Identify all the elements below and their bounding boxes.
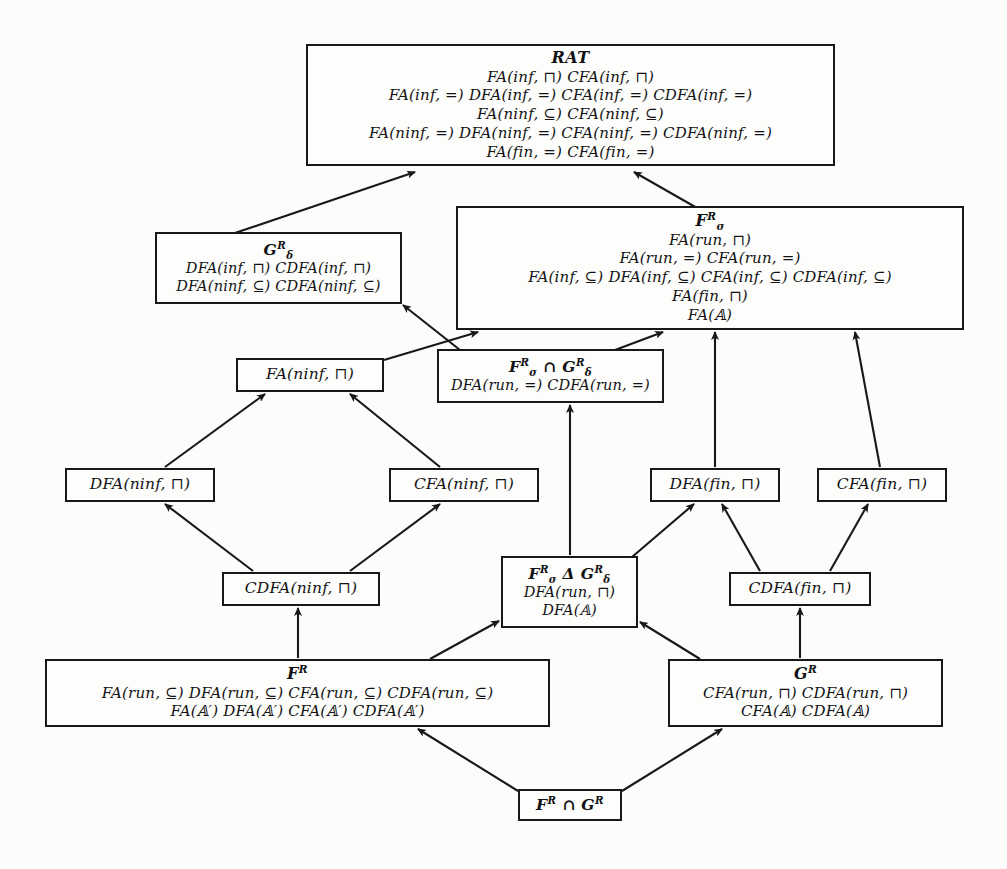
node-row-dfa-fin-meet-0: DFA(fin, ⊓)	[670, 475, 761, 494]
diagram-canvas: RATFA(inf, ⊓) CFA(inf, ⊓)FA(inf, =) DFA(…	[0, 0, 1007, 869]
node-row-f-delta-g-1: DFA(𝔸)	[542, 601, 597, 619]
node-rat[interactable]: RATFA(inf, ⊓) CFA(inf, ⊓)FA(inf, =) DFA(…	[306, 44, 835, 166]
node-row-f-sigma-r-2: FA(inf, ⊆) DFA(inf, ⊆) CFA(inf, ⊆) CDFA(…	[528, 268, 892, 287]
node-title-f-r: FR	[287, 665, 308, 684]
node-row-g-delta-r-0: DFA(inf, ⊓) CDFA(inf, ⊓)	[186, 259, 371, 277]
node-cfa-ninf-meet[interactable]: CFA(ninf, ⊓)	[389, 468, 539, 502]
scan-artifact	[30, 198, 40, 210]
edge-fcapg-to-fsigma	[615, 332, 663, 350]
node-row-g-delta-r-1: DFA(ninf, ⊆) CDFA(ninf, ⊆)	[176, 277, 380, 295]
node-row-g-r-0: CFA(run, ⊓) CDFA(run, ⊓)	[703, 684, 908, 703]
edge-fdeltag-to-dfafin	[632, 504, 694, 557]
edge-cfafin-to-fsigma	[855, 332, 880, 467]
edge-cfaninf-to-faninf	[350, 394, 440, 467]
edge-fcapgbottom-to-fr	[418, 729, 518, 791]
node-g-r[interactable]: GRCFA(run, ⊓) CDFA(run, ⊓)CFA(𝔸) CDFA(𝔸)	[668, 659, 943, 727]
edge-fcapgbottom-to-gr	[622, 729, 722, 791]
node-f-cap-g[interactable]: FRσ ∩ GRδDFA(run, =) CDFA(run, =)	[437, 349, 664, 403]
node-f-delta-g[interactable]: FRσ Δ GRδDFA(run, ⊓)DFA(𝔸)	[501, 556, 638, 628]
node-row-f-cap-g-0: DFA(run, =) CDFA(run, =)	[451, 376, 650, 394]
node-row-rat-0: FA(inf, ⊓) CFA(inf, ⊓)	[487, 68, 654, 87]
node-row-cfa-ninf-meet-0: CFA(ninf, ⊓)	[414, 475, 514, 494]
edge-f-sigma-to-rat	[634, 172, 697, 208]
node-row-f-sigma-r-0: FA(run, ⊓)	[669, 231, 751, 250]
node-title-f-delta-g: FRσ Δ GRδ	[528, 565, 610, 583]
node-row-cdfa-fin-meet-0: CDFA(fin, ⊓)	[749, 579, 852, 598]
edge-cdfaninf-to-cfaninf	[350, 504, 440, 571]
node-row-f-sigma-r-3: FA(fin, ⊓)	[672, 287, 748, 306]
edge-fcapg-to-gdelta	[403, 305, 460, 350]
edge-g-delta-to-rat	[232, 172, 415, 234]
node-f-cap-g-bottom[interactable]: FR ∩ GR	[518, 789, 622, 821]
node-dfa-ninf-meet[interactable]: DFA(ninf, ⊓)	[65, 468, 215, 502]
node-title-f-cap-g-bottom: FR ∩ GR	[536, 796, 604, 814]
node-row-f-delta-g-0: DFA(run, ⊓)	[524, 583, 615, 601]
node-row-rat-4: FA(fin, =) CFA(fin, =)	[486, 143, 654, 162]
node-f-r[interactable]: FRFA(run, ⊆) DFA(run, ⊆) CFA(run, ⊆) CDF…	[45, 659, 550, 727]
edge-gr-to-fdeltag	[640, 622, 700, 659]
node-row-dfa-ninf-meet-0: DFA(ninf, ⊓)	[90, 475, 190, 494]
edge-fr-to-fdeltag	[430, 621, 499, 659]
node-title-g-delta-r: GRδ	[264, 241, 294, 259]
node-title-g-r: GR	[794, 665, 817, 684]
node-dfa-fin-meet[interactable]: DFA(fin, ⊓)	[650, 468, 780, 502]
node-row-rat-3: FA(ninf, =) DFA(ninf, =) CFA(ninf, =) CD…	[369, 124, 772, 143]
node-row-rat-2: FA(ninf, ⊆) CFA(ninf, ⊆)	[477, 105, 664, 124]
edge-cdfafin-to-cfafin	[830, 504, 868, 571]
node-row-f-r-1: FA(𝔸′) DFA(𝔸′) CFA(𝔸′) CDFA(𝔸′)	[170, 702, 424, 721]
node-cdfa-ninf-meet[interactable]: CDFA(ninf, ⊓)	[222, 572, 380, 606]
node-row-rat-1: FA(inf, =) DFA(inf, =) CFA(inf, =) CDFA(…	[389, 86, 753, 105]
node-title-f-sigma-r: FRσ	[695, 212, 724, 231]
edge-cdfafin-to-dfafin	[722, 504, 760, 571]
edge-cdfaninf-to-dfaninf	[165, 504, 253, 571]
node-title-f-cap-g: FRσ ∩ GRδ	[509, 358, 592, 376]
node-row-f-sigma-r-1: FA(run, =) CFA(run, =)	[619, 249, 800, 268]
node-g-delta-r[interactable]: GRδDFA(inf, ⊓) CDFA(inf, ⊓)DFA(ninf, ⊆) …	[155, 232, 402, 304]
node-row-cfa-fin-meet-0: CFA(fin, ⊓)	[837, 475, 927, 494]
node-cfa-fin-meet[interactable]: CFA(fin, ⊓)	[817, 468, 947, 502]
node-row-cdfa-ninf-meet-0: CDFA(ninf, ⊓)	[245, 579, 358, 598]
node-title-rat: RAT	[552, 49, 590, 68]
node-f-sigma-r[interactable]: FRσFA(run, ⊓)FA(run, =) CFA(run, =)FA(in…	[456, 206, 964, 330]
node-row-fa-ninf-meet-0: FA(ninf, ⊓)	[266, 365, 354, 384]
node-row-f-sigma-r-4: FA(𝔸)	[688, 306, 732, 325]
node-fa-ninf-meet[interactable]: FA(ninf, ⊓)	[236, 358, 384, 392]
node-cdfa-fin-meet[interactable]: CDFA(fin, ⊓)	[729, 572, 871, 606]
node-row-g-r-1: CFA(𝔸) CDFA(𝔸)	[741, 702, 870, 721]
edge-dfaninf-to-faninf	[165, 394, 265, 467]
node-row-f-r-0: FA(run, ⊆) DFA(run, ⊆) CFA(run, ⊆) CDFA(…	[102, 684, 494, 703]
